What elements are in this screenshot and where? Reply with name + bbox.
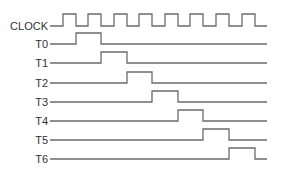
signal-waveform-t4 bbox=[50, 110, 267, 121]
clock-waveform bbox=[50, 14, 267, 26]
signal-waveform-t2 bbox=[50, 72, 267, 83]
signal-waveform-t0 bbox=[50, 33, 267, 44]
signal-waveform-t5 bbox=[50, 129, 267, 140]
signal-waveform-t3 bbox=[50, 91, 267, 102]
signal-waveform-t1 bbox=[50, 52, 267, 63]
timing-diagram: CLOCK T0 T1 T2 T3 T4 T5 T6 bbox=[0, 0, 281, 173]
waveforms bbox=[0, 0, 281, 173]
signal-waveform-t6 bbox=[50, 148, 267, 159]
